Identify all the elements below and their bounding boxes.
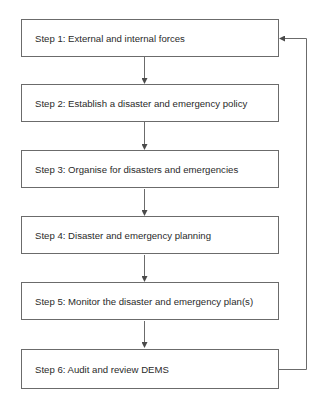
step-1-box: Step 1: External and internal forces [21, 19, 279, 57]
step-6-box: Step 6: Audit and review DEMS [21, 349, 279, 389]
step-3-box: Step 3: Organise for disasters and emerg… [21, 150, 279, 188]
step-6-label: Step 6: Audit and review DEMS [35, 364, 169, 375]
feedback-loop-arrow [279, 39, 307, 370]
step-5-label: Step 5: Monitor the disaster and emergen… [35, 296, 253, 307]
step-4-box: Step 4: Disaster and emergency planning [21, 216, 279, 254]
step-5-box: Step 5: Monitor the disaster and emergen… [21, 282, 279, 320]
step-3-label: Step 3: Organise for disasters and emerg… [35, 164, 238, 175]
connector-layer [0, 0, 323, 405]
step-1-label: Step 1: External and internal forces [35, 33, 185, 44]
step-2-label: Step 2: Establish a disaster and emergen… [35, 98, 247, 109]
step-2-box: Step 2: Establish a disaster and emergen… [21, 84, 279, 122]
step-4-label: Step 4: Disaster and emergency planning [35, 230, 211, 241]
